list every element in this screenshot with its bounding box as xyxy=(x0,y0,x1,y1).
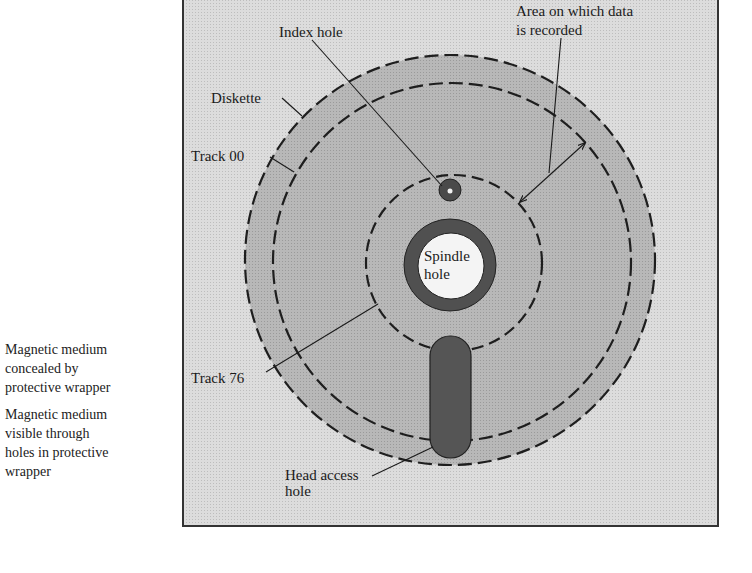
label-head-access-line1: Head access xyxy=(285,467,359,483)
label-head-access-line2: hole xyxy=(285,483,311,499)
label-index-hole: Index hole xyxy=(279,24,343,40)
label-spindle-line2: hole xyxy=(424,266,450,282)
label-spindle-line1: Spindle xyxy=(424,248,470,264)
head-access-hole xyxy=(430,336,471,458)
diskette-diagram: Index hole Area on which data is recorde… xyxy=(0,0,752,573)
label-data-area-line2: is recorded xyxy=(516,22,583,38)
label-track-00: Track 00 xyxy=(191,148,244,164)
label-track-76: Track 76 xyxy=(191,370,245,386)
label-diskette: Diskette xyxy=(211,90,261,106)
label-data-area-line1: Area on which data xyxy=(516,3,633,19)
index-hole-center xyxy=(448,189,453,194)
